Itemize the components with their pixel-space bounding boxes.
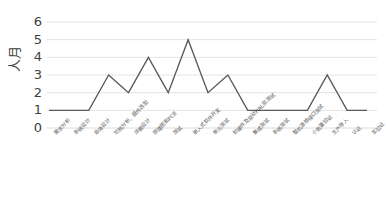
y-tick-label: 5 bbox=[34, 35, 42, 45]
y-tick-label: 6 bbox=[34, 17, 42, 27]
y-tick-label: 1 bbox=[34, 105, 42, 115]
y-axis-title: 人月 bbox=[8, 46, 21, 72]
y-axis-tick-labels: 0123456 bbox=[24, 0, 42, 210]
y-tick-label: 0 bbox=[34, 123, 42, 133]
y-tick-label: 4 bbox=[34, 52, 42, 62]
y-tick-label: 2 bbox=[34, 88, 42, 98]
x-axis-tick-labels: 需求分析系统设计总体设计功耗分析、器件选型详细设计原理图和PCB测试嵌入式软件开… bbox=[47, 131, 379, 210]
y-tick-label: 3 bbox=[34, 70, 42, 80]
